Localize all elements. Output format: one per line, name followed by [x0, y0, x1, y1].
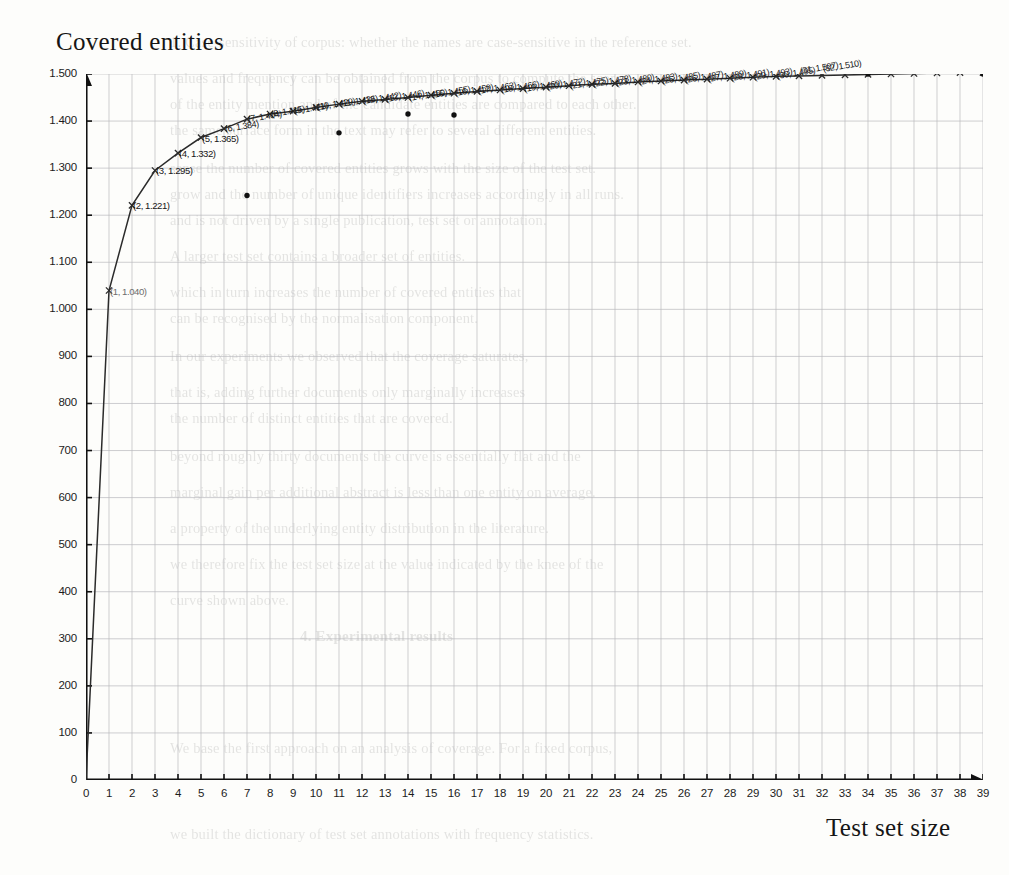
x-axis-tick-label: 33: [834, 787, 856, 799]
y-axis-tick-label: 0: [33, 773, 77, 785]
x-axis-tick-label: 21: [558, 787, 580, 799]
x-axis-tick-label: 38: [949, 787, 971, 799]
plot-canvas: [86, 74, 983, 780]
x-axis-tick-label: 25: [650, 787, 672, 799]
x-axis-tick-label: 4: [167, 787, 189, 799]
y-axis-tick-label: 1.500: [33, 67, 77, 79]
y-axis-tick-label: 300: [33, 632, 77, 644]
x-axis-tick-label: 20: [535, 787, 557, 799]
series-markers-covered-entities: [106, 74, 983, 294]
x-axis-tick-label: 23: [604, 787, 626, 799]
x-axis-tick-label: 11: [328, 787, 350, 799]
x-axis-tick-label: 9: [282, 787, 304, 799]
data-point-label: (2, 1.221): [133, 200, 170, 211]
x-axis-tick-label: 28: [719, 787, 741, 799]
x-axis-tick-label: 39: [972, 787, 994, 799]
x-axis-tick-label: 30: [765, 787, 787, 799]
x-axis-tick-label: 14: [397, 787, 419, 799]
y-axis-tick-label: 100: [33, 726, 77, 738]
x-axis-tick-label: 34: [857, 787, 879, 799]
y-axis-tick-label: 400: [33, 585, 77, 597]
series-line-covered-entities: [86, 74, 983, 780]
x-axis-tick-label: 29: [742, 787, 764, 799]
x-axis-tick-label: 12: [351, 787, 373, 799]
x-axis-tick-label: 13: [374, 787, 396, 799]
x-axis-tick-label: 10: [305, 787, 327, 799]
y-axis-tick-label: 1.100: [33, 255, 77, 267]
data-point-label: (1, 1.040): [110, 286, 147, 297]
x-axis-tick-label: 37: [926, 787, 948, 799]
x-axis-tick-label: 26: [673, 787, 695, 799]
data-point-label: (5, 1.365): [202, 133, 239, 144]
y-axis-tick-label: 800: [33, 396, 77, 408]
x-axis-tick-label: 22: [581, 787, 603, 799]
y-axis-tick-label: 900: [33, 349, 77, 361]
axis-tick-marks: [86, 74, 983, 780]
series-markers-outliers: [244, 74, 983, 198]
x-axis-tick-label: 3: [144, 787, 166, 799]
y-axis-tick-label: 500: [33, 538, 77, 550]
x-axis-tick-label: 6: [213, 787, 235, 799]
x-axis-tick-label: 35: [880, 787, 902, 799]
grid-lines: [86, 74, 983, 780]
data-point-label: (4, 1.332): [179, 148, 216, 159]
y-axis-tick-label: 700: [33, 444, 77, 456]
axis-arrowheads: [86, 74, 983, 780]
axis-lines: [86, 80, 971, 780]
y-axis-tick-label: 1.300: [33, 161, 77, 173]
x-axis-title: Test set size: [826, 814, 950, 842]
y-axis-tick-label: 1.400: [33, 114, 77, 126]
x-axis-tick-label: 8: [259, 787, 281, 799]
x-axis-tick-label: 24: [627, 787, 649, 799]
y-axis-tick-label: 600: [33, 491, 77, 503]
data-point-label: (3, 1.295): [156, 165, 193, 176]
x-axis-tick-label: 18: [489, 787, 511, 799]
x-axis-tick-label: 17: [466, 787, 488, 799]
x-axis-tick-label: 5: [190, 787, 212, 799]
y-axis-tick-label: 1.000: [33, 302, 77, 314]
x-axis-tick-label: 19: [512, 787, 534, 799]
x-axis-tick-label: 16: [443, 787, 465, 799]
x-axis-tick-label: 7: [236, 787, 258, 799]
chart-figure: Covered entities Test set size 010020030…: [0, 0, 1009, 875]
plot-area: [86, 74, 983, 780]
x-axis-tick-label: 32: [811, 787, 833, 799]
x-axis-tick-label: 27: [696, 787, 718, 799]
x-axis-tick-label: 1: [98, 787, 120, 799]
y-axis-tick-label: 200: [33, 679, 77, 691]
x-axis-tick-label: 31: [788, 787, 810, 799]
x-axis-tick-label: 2: [121, 787, 143, 799]
y-axis-tick-label: 1.200: [33, 208, 77, 220]
x-axis-tick-label: 36: [903, 787, 925, 799]
page-title: Covered entities: [56, 28, 224, 56]
x-axis-tick-label: 15: [420, 787, 442, 799]
x-axis-tick-label: 0: [75, 787, 97, 799]
